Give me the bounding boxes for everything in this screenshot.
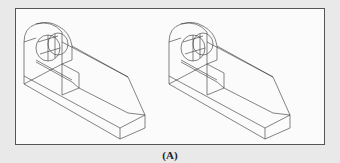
bracket-drawing-right xyxy=(169,22,290,139)
wireframe-drawings xyxy=(0,0,340,163)
bracket-drawing-left xyxy=(24,22,145,139)
figure-caption: (A) xyxy=(0,149,340,161)
